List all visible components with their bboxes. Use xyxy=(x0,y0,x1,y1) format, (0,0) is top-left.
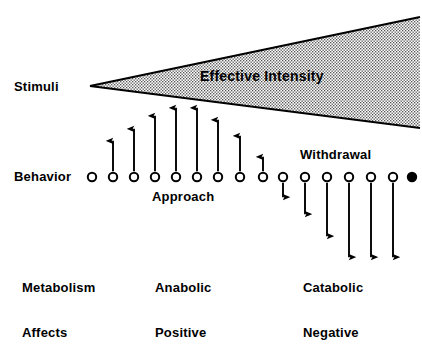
behavior-point-open xyxy=(193,173,201,181)
behavior-point-open xyxy=(367,173,375,181)
behavior-point-open xyxy=(389,173,397,181)
behavior-point-open xyxy=(301,173,309,181)
label-stimuli: Stimuli xyxy=(14,80,59,93)
behavior-points xyxy=(88,173,416,181)
behavior-point-open xyxy=(345,173,353,181)
label-anabolic: Anabolic xyxy=(155,281,212,294)
behavior-point-open xyxy=(172,173,180,181)
behavior-point-open xyxy=(214,173,222,181)
label-withdrawal: Withdrawal xyxy=(300,148,371,161)
behavior-point-open xyxy=(323,173,331,181)
label-behavior: Behavior xyxy=(14,170,71,183)
behavior-point-open xyxy=(151,173,159,181)
behavior-point-open xyxy=(130,173,138,181)
behavior-arrows xyxy=(113,108,393,257)
label-approach: Approach xyxy=(152,190,214,203)
label-metabolism: Metabolism xyxy=(22,281,96,294)
behavior-point-filled xyxy=(408,173,416,181)
label-effective-intensity: Effective Intensity xyxy=(200,69,324,83)
behavior-point-open xyxy=(259,173,267,181)
label-positive: Positive xyxy=(155,326,206,339)
figure-canvas: Stimuli Effective Intensity Behavior App… xyxy=(0,0,422,362)
behavior-point-open xyxy=(236,173,244,181)
behavior-point-open xyxy=(109,173,117,181)
behavior-point-open xyxy=(88,173,96,181)
behavior-point-open xyxy=(279,173,287,181)
label-catabolic: Catabolic xyxy=(303,281,363,294)
label-affects: Affects xyxy=(22,326,67,339)
label-negative: Negative xyxy=(303,326,359,339)
